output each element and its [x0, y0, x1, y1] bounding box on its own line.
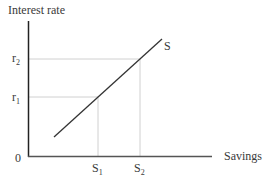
y-tick-r1: r1 [12, 91, 20, 106]
x-axis-label: Savings [224, 150, 262, 162]
y-axis-label: Interest rate [8, 4, 65, 16]
curve-label: S [164, 40, 171, 52]
savings-curve-s [54, 39, 162, 137]
x-tick-s1: S1 [92, 162, 103, 177]
x-tick-s2: S2 [134, 162, 145, 177]
y-tick-r2: r2 [12, 52, 20, 67]
origin-label: 0 [15, 152, 21, 164]
